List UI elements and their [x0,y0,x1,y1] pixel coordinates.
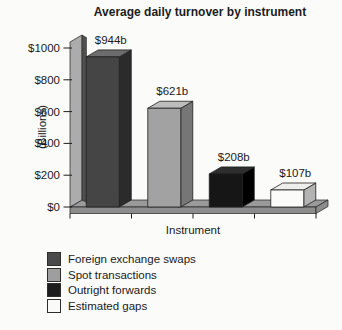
floor-front [70,207,316,214]
y-axis-tick-label: $1000 [28,42,60,54]
legend-swatch [47,299,61,313]
bar-front-face [86,57,119,207]
legend-swatch [47,283,61,297]
bar-value-label: $621b [156,85,188,97]
legend-item: Foreign exchange swaps [47,252,196,266]
legend-swatch [47,268,61,282]
bar-side-face [119,50,131,207]
y-axis-label: (Billions) [36,105,48,149]
bar-front-face [209,174,242,207]
legend-label: Estimated gaps [68,299,147,313]
legend-label: Outright forwards [68,283,156,297]
legend-label: Spot transactions [68,268,157,282]
scanned-chart-page: Average daily turnover by instrument $0$… [0,0,342,330]
bar-value-label: $107b [279,167,311,179]
y-axis-tick-label: $200 [34,169,60,181]
legend-item: Estimated gaps [47,299,196,313]
y-axis-tick-label: $0 [47,201,60,213]
chart-plot-area: $0$200$400$600$800$1000$944b$621b$208b$1… [28,34,328,219]
bar-value-label: $944b [95,34,127,46]
bar-front-face [148,108,181,207]
bar-side-face [181,101,193,207]
axis-wall-face [70,35,82,207]
bar-value-label: $208b [218,151,250,163]
axis-wall-edge [82,35,87,203]
y-axis-tick-label: $800 [34,74,60,86]
x-axis-label: Instrument [166,224,221,236]
bar-front-face [271,190,304,207]
legend-label: Foreign exchange swaps [68,252,196,266]
legend-swatch [47,252,61,266]
chart-legend: Foreign exchange swapsSpot transactionsO… [47,252,196,314]
legend-item: Outright forwards [47,283,196,297]
legend-item: Spot transactions [47,268,196,282]
